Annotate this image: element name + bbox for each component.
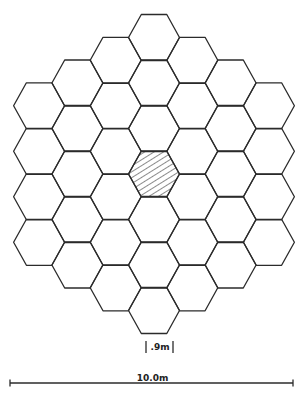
hex-cell xyxy=(52,106,103,152)
hex-cell xyxy=(52,151,103,197)
hex-cell xyxy=(167,265,218,311)
hatched-center-cell xyxy=(129,151,180,197)
hex-cell xyxy=(243,219,294,265)
hex-cell xyxy=(90,83,141,129)
hex-cell xyxy=(129,242,180,288)
hex-cell xyxy=(129,288,180,334)
hex-cell xyxy=(205,242,256,288)
hex-cell xyxy=(129,197,180,243)
hex-cell xyxy=(14,128,65,174)
hex-grid xyxy=(14,15,295,334)
hex-cell xyxy=(90,219,141,265)
hex-cell xyxy=(243,128,294,174)
hex-cell xyxy=(52,242,103,288)
hex-cell xyxy=(52,197,103,243)
hex-cell xyxy=(52,60,103,106)
hex-cell xyxy=(205,60,256,106)
hex-cell xyxy=(14,219,65,265)
hex-cell xyxy=(129,60,180,106)
hex-cell xyxy=(167,83,218,129)
hex-cell xyxy=(243,174,294,220)
hex-cell xyxy=(129,106,180,152)
hex-cell xyxy=(14,174,65,220)
hex-cell xyxy=(129,15,180,61)
hex-cell xyxy=(14,83,65,129)
hex-grid-diagram: .9m 10.0m xyxy=(0,0,305,396)
hex-cell xyxy=(205,197,256,243)
hex-cell xyxy=(167,37,218,83)
hex-cell xyxy=(205,151,256,197)
cell-width-scale: .9m xyxy=(146,341,173,353)
hex-cell xyxy=(90,265,141,311)
hex-cell xyxy=(167,219,218,265)
hex-cell xyxy=(243,83,294,129)
hex-cell xyxy=(205,106,256,152)
overall-scale-label: 10.0m xyxy=(137,373,169,383)
overall-width-scale: 10.0m xyxy=(10,373,293,387)
hex-cell xyxy=(90,37,141,83)
cell-scale-label: .9m xyxy=(150,342,169,352)
